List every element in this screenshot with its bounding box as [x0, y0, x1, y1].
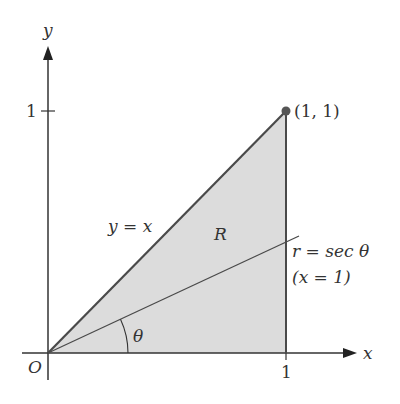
- x-axis-label: x: [363, 343, 373, 363]
- y-tick-label: 1: [26, 101, 37, 121]
- polar-region-diagram: y x O 1 1 (1, 1) R y = x r = sec θ (x = …: [0, 0, 400, 404]
- x-tick-label: 1: [281, 362, 292, 382]
- y-axis-label: y: [42, 20, 53, 40]
- y-axis-arrow-icon: [43, 46, 53, 60]
- region-label: R: [213, 224, 227, 244]
- ray-sublabel: (x = 1): [292, 267, 351, 287]
- angle-label: θ: [133, 326, 143, 346]
- line-label: y = x: [107, 216, 153, 236]
- point-1-1: [282, 107, 291, 116]
- x-axis-arrow-icon: [343, 348, 357, 358]
- origin-label: O: [28, 357, 42, 377]
- point-label: (1, 1): [294, 101, 340, 121]
- ray-label: r = sec θ: [292, 241, 369, 261]
